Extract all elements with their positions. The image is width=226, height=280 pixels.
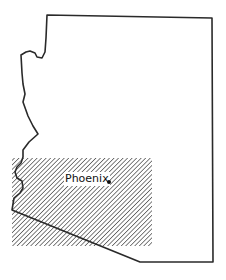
city-marker-phoenix	[107, 180, 111, 184]
city-label-phoenix: Phoenix	[64, 172, 110, 186]
state-map	[0, 0, 226, 280]
